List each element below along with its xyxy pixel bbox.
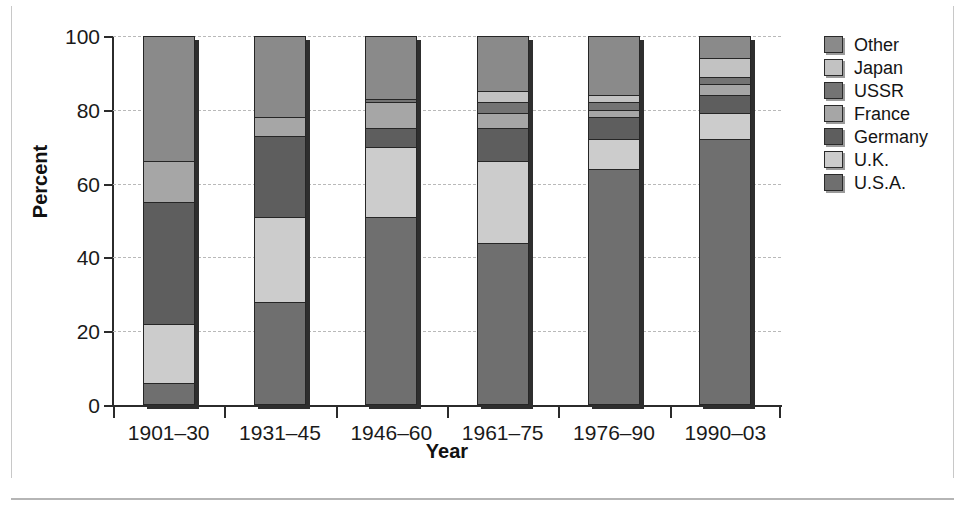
bar-segment-france xyxy=(366,103,416,129)
bar-1990-03[interactable] xyxy=(699,36,751,405)
bar-stack xyxy=(477,36,529,405)
legend-item[interactable]: Other xyxy=(824,33,954,56)
gridline xyxy=(113,36,781,38)
legend-item[interactable]: Germany xyxy=(824,125,954,148)
x-tick-mark xyxy=(224,407,226,418)
legend-swatch-icon xyxy=(824,105,843,122)
bar-segment-other xyxy=(700,37,750,59)
bar-segment-germany xyxy=(255,137,305,218)
legend-label: USSR xyxy=(854,82,904,100)
bar-segment-other xyxy=(478,37,528,92)
y-tick-mark xyxy=(104,405,113,407)
bar-segment-france xyxy=(255,118,305,136)
bar-segment-france xyxy=(700,85,750,96)
bar-segment-other xyxy=(366,37,416,100)
bar-stack xyxy=(365,36,417,405)
legend-label: France xyxy=(854,105,910,123)
bar-segment-france xyxy=(478,114,528,129)
x-tick-mark xyxy=(336,407,338,418)
bar-segment-germany xyxy=(144,203,194,325)
bar-segment-other xyxy=(144,37,194,162)
bar-segment-uk xyxy=(700,114,750,140)
bar-segment-usa xyxy=(144,384,194,405)
y-tick-mark xyxy=(104,184,113,186)
bar-1931-45[interactable] xyxy=(254,36,306,405)
bar-segment-uk xyxy=(366,148,416,218)
legend-swatch-icon xyxy=(824,151,843,168)
y-tick-label: 40 xyxy=(77,247,100,268)
x-tick-mark xyxy=(670,407,672,418)
legend-item[interactable]: USSR xyxy=(824,79,954,102)
y-axis-line xyxy=(112,36,114,407)
x-tick-mark xyxy=(447,407,449,418)
legend-swatch-icon xyxy=(824,174,843,191)
bar-segment-usa xyxy=(366,218,416,405)
y-tick-label: 20 xyxy=(77,321,100,342)
y-tick-label: 60 xyxy=(77,173,100,194)
legend-label: U.S.A. xyxy=(854,174,906,192)
legend-label: Germany xyxy=(854,128,928,146)
y-axis-title: Percent xyxy=(29,122,52,242)
bar-1976-90[interactable] xyxy=(588,36,640,405)
x-tick-mark xyxy=(558,407,560,418)
bar-stack xyxy=(143,36,195,405)
legend-label: U.K. xyxy=(854,151,889,169)
bar-segment-ussr xyxy=(589,103,639,110)
x-tick-mark xyxy=(113,407,115,418)
bar-segment-usa xyxy=(589,170,639,405)
bar-1946-60[interactable] xyxy=(365,36,417,405)
gridline xyxy=(113,331,781,333)
bar-segment-usa xyxy=(255,303,305,405)
legend-item[interactable]: U.K. xyxy=(824,148,954,171)
bar-segment-germany xyxy=(478,129,528,162)
legend-swatch-icon xyxy=(824,128,843,145)
bar-segment-other xyxy=(255,37,305,118)
plot-area: 020406080100 1901–301931–451946–601961–7… xyxy=(113,36,781,406)
bar-segment-france xyxy=(589,111,639,118)
legend-swatch-icon xyxy=(824,82,843,99)
bar-stack xyxy=(254,36,306,405)
bar-segment-uk xyxy=(589,140,639,170)
bar-segment-germany xyxy=(366,129,416,147)
legend-swatch-icon xyxy=(824,59,843,76)
bar-1901-30[interactable] xyxy=(143,36,195,405)
bar-segment-ussr xyxy=(700,78,750,85)
x-tick-mark xyxy=(779,407,781,418)
bar-segment-usa xyxy=(700,140,750,405)
gridline xyxy=(113,110,781,112)
gridline xyxy=(113,184,781,186)
bar-segment-uk xyxy=(255,218,305,303)
y-tick-label: 80 xyxy=(77,99,100,120)
gridline xyxy=(113,257,781,259)
y-tick-mark xyxy=(104,331,113,333)
bar-1961-75[interactable] xyxy=(477,36,529,405)
bar-segment-uk xyxy=(144,325,194,384)
bar-stack xyxy=(699,36,751,405)
y-tick-label: 100 xyxy=(65,26,100,47)
bar-segment-germany xyxy=(589,118,639,140)
figure-container: 020406080100 1901–301931–451946–601961–7… xyxy=(0,0,965,512)
figure-left-rule xyxy=(11,6,12,478)
legend-swatch-icon xyxy=(824,36,843,53)
y-tick-mark xyxy=(104,257,113,259)
chart-legend: OtherJapanUSSRFranceGermanyU.K.U.S.A. xyxy=(824,33,954,194)
bar-segment-germany xyxy=(700,96,750,114)
legend-item[interactable]: U.S.A. xyxy=(824,171,954,194)
bar-segment-japan xyxy=(700,59,750,77)
bar-segment-uk xyxy=(478,162,528,243)
legend-item[interactable]: Japan xyxy=(824,56,954,79)
y-tick-label: 0 xyxy=(88,395,100,416)
bar-segment-japan xyxy=(589,96,639,103)
bar-segment-usa xyxy=(478,244,528,405)
bar-segment-other xyxy=(589,37,639,96)
legend-item[interactable]: France xyxy=(824,102,954,125)
bar-stack xyxy=(588,36,640,405)
x-axis-title: Year xyxy=(113,440,781,463)
bar-segment-japan xyxy=(478,92,528,103)
y-tick-mark xyxy=(104,36,113,38)
bar-segment-france xyxy=(144,162,194,203)
y-tick-mark xyxy=(104,110,113,112)
bar-segment-ussr xyxy=(478,103,528,114)
legend-label: Other xyxy=(854,36,899,54)
figure-bottom-rule xyxy=(11,498,954,500)
